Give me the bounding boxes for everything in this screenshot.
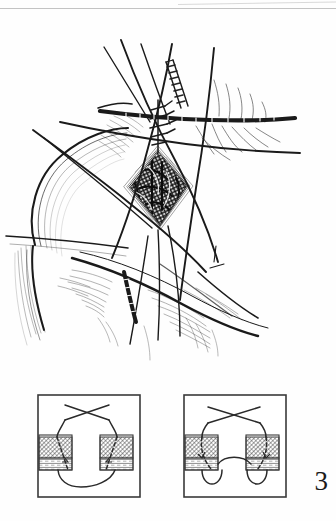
illustration-page: 3 (0, 0, 336, 521)
panel-right (183, 394, 287, 498)
tissue-block-right (246, 435, 279, 470)
fat-horizontal-lined (100, 458, 133, 470)
tissue-block-left (39, 435, 72, 470)
fat-horizontal-lined (185, 458, 218, 470)
retractor-blade (166, 60, 188, 108)
skin-crease-lines (18, 246, 45, 337)
chest-contour-line (6, 236, 128, 248)
lower-left-hatching (58, 270, 112, 317)
traction-suture-diagonal (33, 130, 206, 272)
figure-number: 3 (315, 468, 329, 495)
traction-suture-horizontal (60, 122, 300, 153)
panel-left (37, 394, 141, 498)
undermined-flap-edge (72, 252, 268, 336)
